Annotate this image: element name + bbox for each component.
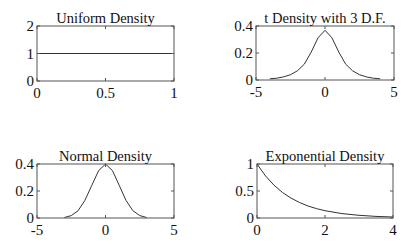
subplot-2: -50500.20.4t Density with 3 D.F. (234, 10, 398, 100)
y-tick-label: 0.5 (235, 183, 254, 199)
y-tick-label: 0 (27, 210, 35, 226)
x-tick-label: 0 (102, 222, 110, 238)
y-tick-label: 0 (246, 72, 254, 88)
x-tick-label: 0.5 (96, 85, 115, 101)
x-tick-label: 4 (389, 222, 397, 238)
axes-box (256, 26, 394, 80)
x-tick-label: 5 (170, 222, 178, 238)
chart-title: t Density with 3 D.F. (264, 10, 385, 26)
y-tick-label: 0 (247, 210, 255, 226)
series-line (64, 164, 146, 217)
x-tick-label: 1 (170, 85, 178, 101)
y-tick-label: 0 (27, 73, 35, 89)
y-tick-label: 2 (27, 18, 35, 34)
axes-box (257, 164, 393, 218)
chart-title: Exponential Density (266, 148, 386, 164)
chart-title: Uniform Density (56, 10, 155, 26)
figure: 00.51012Uniform Density-50500.20.4t Dens… (0, 0, 415, 251)
x-tick-label: 5 (390, 84, 398, 100)
y-tick-label: 1 (247, 156, 255, 172)
axes-box (37, 164, 174, 218)
series-line (257, 164, 393, 217)
chart-title: Normal Density (59, 148, 153, 164)
subplot-1: 00.51012Uniform Density (27, 10, 178, 101)
subplot-3: -50500.20.4Normal Density (15, 148, 178, 238)
x-tick-label: 0 (253, 222, 261, 238)
y-tick-label: 1 (27, 46, 35, 62)
y-tick-label: 0.4 (234, 18, 253, 34)
y-tick-label: 0.2 (234, 45, 253, 61)
y-tick-label: 0.2 (15, 183, 34, 199)
x-tick-label: 0 (321, 84, 329, 100)
y-tick-label: 0.4 (15, 156, 34, 172)
x-tick-label: 2 (321, 222, 329, 238)
x-tick-label: 0 (33, 85, 41, 101)
subplot-4: 02400.51Exponential Density (235, 148, 397, 238)
series-line (270, 30, 380, 79)
